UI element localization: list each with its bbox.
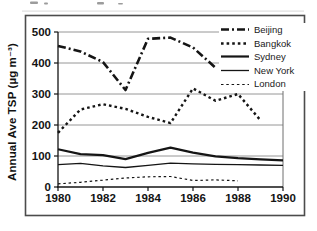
legend-sample-london-line: [219, 78, 251, 91]
x-tick-label-1986: 1986: [180, 192, 206, 204]
legend-item-bangkok: Bangkok: [219, 37, 306, 51]
legend-sample-beijing-line: [219, 23, 251, 36]
series-line-london: [58, 177, 238, 184]
series-line-sydney: [58, 148, 283, 161]
cropped-text-remnant: [97, 2, 104, 5]
cropped-text-remnant: [118, 3, 123, 5]
x-tick-label-1988: 1988: [225, 192, 251, 204]
y-tick-label-500: 500: [32, 26, 51, 38]
legend-sample-sydney-line: [219, 50, 251, 63]
x-tick-label-1980: 1980: [45, 192, 71, 204]
scanned-chart-figure: 0100200300400500198019821984198619881990…: [0, 0, 317, 231]
legend-item-new-york: New York: [219, 64, 306, 78]
y-tick-label-100: 100: [32, 150, 51, 162]
legend: BeijingBangkokSydneyNew YorkLondon: [219, 23, 306, 91]
legend-sample-new-york-line: [219, 64, 251, 77]
series-line-new-york: [58, 163, 283, 167]
series-line-beijing: [58, 38, 216, 90]
legend-label-london: London: [251, 79, 286, 89]
scan-shadow-line: [22, 11, 304, 12]
series-line-bangkok: [58, 88, 261, 132]
x-tick-label-1982: 1982: [90, 192, 116, 204]
x-tick-label-1990: 1990: [270, 192, 296, 204]
legend-label-new-york: New York: [251, 66, 294, 76]
legend-item-beijing: Beijing: [219, 23, 306, 37]
legend-label-bangkok: Bangkok: [251, 39, 291, 49]
legend-item-sydney: Sydney: [219, 50, 306, 64]
cropped-text-remnant: [30, 2, 38, 5]
cropped-text-remnant: [44, 3, 48, 5]
legend-label-beijing: Beijing: [251, 25, 283, 35]
legend-sample-bangkok-line: [219, 37, 251, 50]
x-tick-label-1984: 1984: [135, 192, 161, 204]
y-axis-title: Annual Ave TSP (µg m⁻³): [5, 32, 19, 192]
y-tick-label-200: 200: [32, 119, 51, 131]
legend-label-sydney: Sydney: [251, 52, 286, 62]
y-tick-label-300: 300: [32, 88, 51, 100]
legend-item-london: London: [219, 77, 306, 91]
y-tick-label-400: 400: [32, 57, 51, 69]
